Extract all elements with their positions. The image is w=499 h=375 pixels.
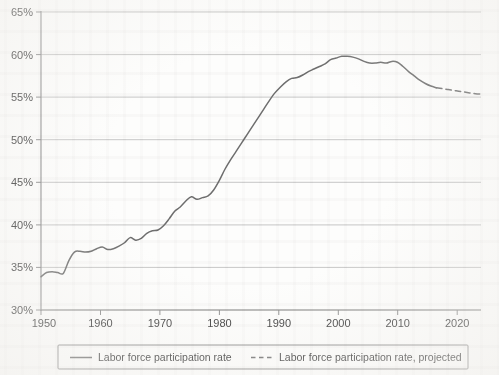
- y-tick-label-45: 45%: [11, 176, 33, 188]
- y-tick-label-60: 60%: [11, 49, 33, 61]
- x-tick-label-1970: 1970: [148, 317, 172, 329]
- legend-label-projected: Labor force participation rate, projecte…: [279, 351, 462, 363]
- y-tick-label-35: 35%: [11, 261, 33, 273]
- x-tick-label-1990: 1990: [267, 317, 291, 329]
- legend: Labor force participation rate Labor for…: [58, 345, 468, 369]
- x-tick-label-2000: 2000: [326, 317, 350, 329]
- y-axis-labels: 65% 60% 55% 50% 45% 40% 35% 30%: [11, 6, 33, 316]
- y-tick-marks: [36, 12, 41, 310]
- x-tick-label-1950: 1950: [32, 317, 56, 329]
- y-tick-label-65: 65%: [11, 6, 33, 18]
- x-tick-marks: [41, 310, 457, 315]
- gridlines: [41, 12, 481, 310]
- x-axis-labels: 1950 1960 1970 1980 1990 2000 2010 2020: [32, 317, 470, 329]
- series-line-historical: [41, 56, 436, 277]
- y-tick-label-30: 30%: [11, 304, 33, 316]
- y-tick-label-50: 50%: [11, 134, 33, 146]
- x-tick-label-2010: 2010: [385, 317, 409, 329]
- legend-label-historical: Labor force participation rate: [98, 351, 232, 363]
- figure-container: 65% 60% 55% 50% 45% 40% 35% 30% 1950 196…: [0, 0, 499, 375]
- labor-force-participation-chart: 65% 60% 55% 50% 45% 40% 35% 30% 1950 196…: [0, 0, 499, 375]
- series-line-projected: [436, 88, 481, 94]
- x-tick-label-1980: 1980: [207, 317, 231, 329]
- x-tick-label-2020: 2020: [445, 317, 469, 329]
- y-tick-label-40: 40%: [11, 219, 33, 231]
- x-tick-label-1960: 1960: [88, 317, 112, 329]
- y-tick-label-55: 55%: [11, 91, 33, 103]
